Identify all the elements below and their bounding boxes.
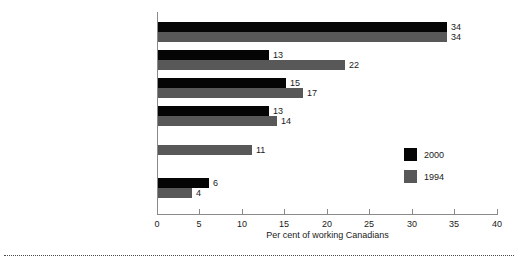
legend-label-2000: 2000 bbox=[424, 150, 444, 160]
x-tick-label-40: 40 bbox=[492, 219, 502, 229]
x-tick-label-20: 20 bbox=[322, 219, 332, 229]
legend-swatch-2000-icon bbox=[404, 148, 417, 161]
bar-other-1994 bbox=[158, 188, 192, 198]
legend-item-2000: 2000 bbox=[404, 146, 444, 163]
x-tick-label-25: 25 bbox=[364, 219, 374, 229]
bar-value-risk-of-accident-1994: 14 bbox=[281, 116, 291, 126]
x-tick-label-15: 15 bbox=[279, 219, 289, 229]
horizontal-bar-chart: Too many demands/hours Threat of layoff/… bbox=[0, 0, 518, 268]
bar-risk-of-accident-1994 bbox=[158, 116, 277, 126]
x-tick-40 bbox=[497, 209, 498, 215]
chart-legend: 2000 1994 bbox=[404, 146, 444, 190]
x-axis-title: Per cent of working Canadians bbox=[157, 230, 498, 240]
plot-area: 0 5 10 15 20 25 30 35 40 34 34 13 22 15 … bbox=[157, 12, 498, 214]
x-tick-label-5: 5 bbox=[196, 219, 201, 229]
bar-too-many-demands-1994 bbox=[158, 32, 447, 42]
x-tick-30 bbox=[412, 209, 413, 215]
x-tick-label-0: 0 bbox=[154, 219, 159, 229]
bar-value-risk-of-accident-2000: 13 bbox=[273, 106, 283, 116]
legend-swatch-1994-icon bbox=[404, 170, 417, 183]
bar-threat-of-layoff-1994 bbox=[158, 60, 345, 70]
bar-value-too-many-demands-2000: 34 bbox=[451, 22, 461, 32]
x-tick-25 bbox=[369, 209, 370, 215]
legend-item-1994: 1994 bbox=[404, 168, 444, 185]
x-tick-35 bbox=[454, 209, 455, 215]
bar-value-too-many-demands-1994: 34 bbox=[451, 32, 461, 42]
x-tick-label-35: 35 bbox=[449, 219, 459, 229]
bar-risk-of-accident-2000 bbox=[158, 106, 269, 116]
legend-label-1994: 1994 bbox=[424, 172, 444, 182]
bar-other-2000 bbox=[158, 178, 209, 188]
bar-computer-skills-1994 bbox=[158, 145, 252, 155]
bar-value-other-1994: 4 bbox=[196, 188, 201, 198]
x-tick-5 bbox=[199, 209, 200, 215]
bar-value-other-2000: 6 bbox=[213, 178, 218, 188]
x-tick-10 bbox=[242, 209, 243, 215]
bottom-divider bbox=[4, 255, 514, 256]
x-tick-20 bbox=[327, 209, 328, 215]
bar-value-threat-of-layoff-2000: 13 bbox=[273, 50, 283, 60]
bar-poor-relations-1994 bbox=[158, 88, 303, 98]
x-tick-label-10: 10 bbox=[237, 219, 247, 229]
bar-poor-relations-2000 bbox=[158, 78, 286, 88]
x-tick-15 bbox=[284, 209, 285, 215]
bar-value-poor-relations-2000: 15 bbox=[290, 78, 300, 88]
x-tick-0 bbox=[157, 209, 158, 215]
bar-too-many-demands-2000 bbox=[158, 22, 447, 32]
bar-value-computer-skills-1994: 11 bbox=[256, 145, 265, 155]
bar-threat-of-layoff-2000 bbox=[158, 50, 269, 60]
x-tick-label-30: 30 bbox=[407, 219, 417, 229]
bar-value-poor-relations-1994: 17 bbox=[307, 88, 317, 98]
bar-value-threat-of-layoff-1994: 22 bbox=[349, 60, 359, 70]
